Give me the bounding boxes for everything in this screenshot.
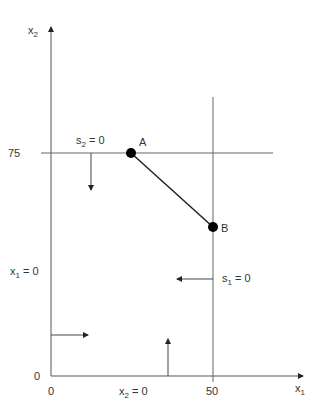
y-tick-0: 0 [34,370,40,382]
point-a [126,148,136,158]
constraint-label-s1: s1 = 0 [222,272,251,287]
x-axis-label: x1 [295,382,306,397]
y-axis-label: x2 [28,24,39,39]
point-b-label: B [221,222,228,234]
x-tick-50: 50 [206,385,218,397]
constraint-label-s2: s2 = 0 [76,134,105,149]
point-b [208,222,218,232]
lp-diagram: A B x2 x1 75 0 0 50 s2 = 0 s1 = 0 x1 = 0… [0,0,320,417]
y-tick-75: 75 [8,147,20,159]
edge-a-b [131,153,213,227]
constraint-label-x2: x2 = 0 [119,385,148,400]
constraint-label-x1: x1 = 0 [10,265,39,280]
point-a-label: A [139,136,147,148]
x-tick-0: 0 [48,385,54,397]
